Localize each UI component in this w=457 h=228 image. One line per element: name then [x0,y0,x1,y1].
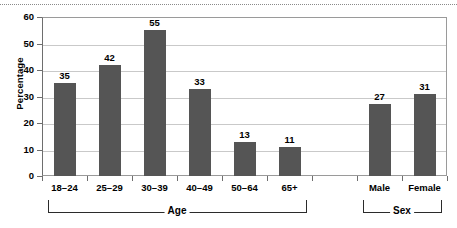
bars-layer: 3542553313112731 [42,17,447,176]
x-axis-tick-mark [222,176,223,181]
bar [54,83,76,176]
y-axis-tick-label: 50 [0,38,34,49]
bar [279,147,301,176]
bar-value-label: 11 [270,134,310,145]
y-axis-tick-label: 40 [0,64,34,75]
bar-value-label: 42 [90,52,130,63]
x-axis-tick-mark [357,176,358,181]
bar [144,30,166,176]
x-axis-tick-mark [177,176,178,181]
x-axis-category-label: Female [395,182,455,193]
y-axis-tick-label: 10 [0,144,34,155]
x-axis-tick-mark [402,176,403,181]
x-axis-category-label: 65+ [260,182,320,193]
group-bracket-age: Age [48,200,307,216]
y-axis-tick-label: 60 [0,11,34,22]
x-axis-tick-mark [42,176,43,181]
group-label: Sex [390,205,414,216]
bracket-left-rail [48,212,178,213]
bar [189,89,211,176]
group-label: Age [165,205,190,216]
y-axis-tick-label: 0 [0,170,34,181]
x-axis-tick-mark [132,176,133,181]
y-axis-title: Percentage [14,39,25,129]
bar [414,94,436,176]
x-axis-tick-mark [267,176,268,181]
bar-value-label: 35 [45,70,85,81]
bar-value-label: 27 [360,91,400,102]
bar-value-label: 13 [225,129,265,140]
bar-value-label: 33 [180,76,220,87]
x-axis-tick-mark [312,176,313,181]
bar [369,104,391,176]
group-bracket-sex: Sex [363,200,442,216]
y-axis-tick-label: 30 [0,91,34,102]
x-axis-tick-mark [447,176,448,181]
bracket-right-rail [177,212,307,213]
bar [99,65,121,176]
x-axis-tick-mark [87,176,88,181]
bar [234,142,256,176]
bar-chart-figure: Percentage 0102030405060 354255331311273… [0,0,457,228]
bar-value-label: 55 [135,17,175,28]
bar-value-label: 31 [405,81,445,92]
y-axis-tick-label: 20 [0,117,34,128]
